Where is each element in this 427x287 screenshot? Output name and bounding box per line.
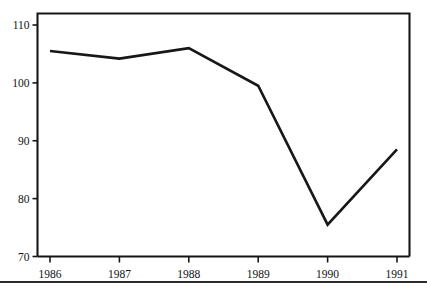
chart-background [0, 0, 427, 287]
y-tick-label-80: 80 [18, 193, 30, 205]
x-tick-label-1988: 1988 [177, 268, 200, 280]
x-tick-label-1989: 1989 [247, 268, 270, 280]
footer-divider-rule [0, 281, 427, 283]
x-tick-label-1987: 1987 [108, 268, 131, 280]
y-tick-label-90: 90 [18, 135, 30, 147]
x-tick-label-1990: 1990 [316, 268, 339, 280]
y-tick-label-110: 110 [13, 19, 30, 31]
y-tick-label-100: 100 [12, 77, 30, 89]
line-chart-figure: 110100908070 198619871988198919901991 [0, 0, 427, 287]
y-tick-label-70: 70 [18, 251, 30, 263]
chart-canvas: 110100908070 198619871988198919901991 [0, 0, 427, 287]
x-tick-label-1991: 1991 [386, 268, 409, 280]
x-tick-label-1986: 1986 [39, 268, 62, 280]
